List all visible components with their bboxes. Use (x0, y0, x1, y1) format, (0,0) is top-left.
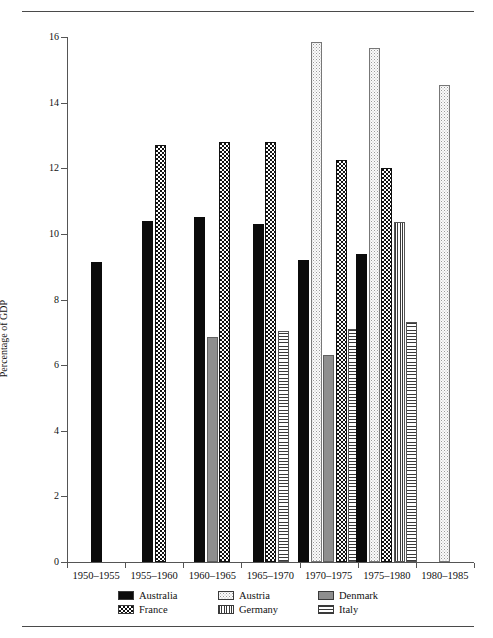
bar-austria-1970-1975 (311, 42, 322, 562)
y-tick-label: 4 (29, 426, 59, 436)
x-tick (358, 563, 359, 568)
legend-swatch-italy-icon (318, 605, 334, 614)
y-tick-label: 10 (29, 229, 59, 239)
legend-label: Italy (339, 604, 358, 615)
x-tick (474, 563, 475, 568)
legend-label: France (139, 604, 168, 615)
bar-denmark-1960-1965 (207, 337, 218, 562)
x-tick (241, 563, 242, 568)
legend-item-germany[interactable]: Germany (218, 604, 318, 615)
legend-swatch-denmark-icon (318, 591, 334, 600)
bar-france-1960-1965 (219, 142, 230, 562)
bar-australia-1965-1970 (253, 224, 264, 562)
x-tick (183, 563, 184, 568)
legend-row: FranceGermanyItaly (118, 602, 418, 616)
top-rule (22, 11, 474, 12)
bar-france-1965-1970 (265, 142, 276, 562)
legend-row: AustraliaAustriaDenmark (118, 588, 418, 602)
bar-austria-1980-1985 (439, 85, 450, 562)
legend-swatch-australia-icon (118, 591, 134, 600)
bar-france-1975-1980 (381, 168, 392, 562)
plot-area (67, 37, 474, 562)
bar-australia-1960-1965 (194, 217, 205, 562)
x-tick (125, 563, 126, 568)
x-axis-category-label: 1950–1955 (67, 570, 125, 582)
bar-australia-1975-1980 (356, 254, 367, 562)
bar-australia-1955-1960 (142, 221, 153, 562)
y-tick-label: 0 (29, 557, 59, 567)
bar-germany-1975-1980 (394, 222, 405, 562)
legend-swatch-france-icon (118, 605, 134, 614)
legend-item-denmark[interactable]: Denmark (318, 590, 418, 601)
chart-figure: Percentage of GDP 0246810121416 1950–195… (0, 0, 493, 638)
legend-label: Denmark (339, 590, 378, 601)
x-axis-category-label: 1980–1985 (416, 570, 474, 582)
bar-italy-1965-1970 (278, 331, 289, 562)
chart-legend: AustraliaAustriaDenmarkFranceGermanyItal… (118, 588, 418, 616)
legend-label: Australia (139, 590, 178, 601)
bar-austria-1975-1980 (369, 48, 380, 562)
x-tick (300, 563, 301, 568)
legend-item-italy[interactable]: Italy (318, 604, 418, 615)
y-tick-label: 8 (29, 295, 59, 305)
x-axis-category-label: 1960–1965 (183, 570, 241, 582)
y-tick-label: 14 (29, 98, 59, 108)
bar-denmark-1970-1975 (323, 355, 334, 562)
y-tick-label: 12 (29, 163, 59, 173)
bar-france-1970-1975 (336, 160, 347, 562)
x-axis-category-label: 1975–1980 (358, 570, 416, 582)
legend-item-australia[interactable]: Australia (118, 590, 218, 601)
y-axis-label: Percentage of GDP (0, 300, 9, 377)
x-axis-category-label: 1970–1975 (300, 570, 358, 582)
x-axis-category-label: 1965–1970 (241, 570, 299, 582)
legend-item-austria[interactable]: Austria (218, 590, 318, 601)
legend-label: Germany (239, 604, 278, 615)
bottom-rule (22, 626, 474, 627)
legend-swatch-germany-icon (218, 605, 234, 614)
x-axis-line (67, 562, 474, 563)
x-tick (67, 563, 68, 568)
x-tick (416, 563, 417, 568)
legend-label: Austria (239, 590, 270, 601)
bar-france-1955-1960 (155, 145, 166, 562)
bar-australia-1970-1975 (298, 260, 309, 562)
y-tick-label: 6 (29, 360, 59, 370)
legend-item-france[interactable]: France (118, 604, 218, 615)
x-axis-category-label: 1955–1960 (125, 570, 183, 582)
y-tick-label: 16 (29, 32, 59, 42)
bar-australia-1950-1955 (91, 262, 102, 562)
legend-swatch-austria-icon (218, 591, 234, 600)
y-tick-label: 2 (29, 491, 59, 501)
bar-italy-1975-1980 (406, 322, 417, 562)
